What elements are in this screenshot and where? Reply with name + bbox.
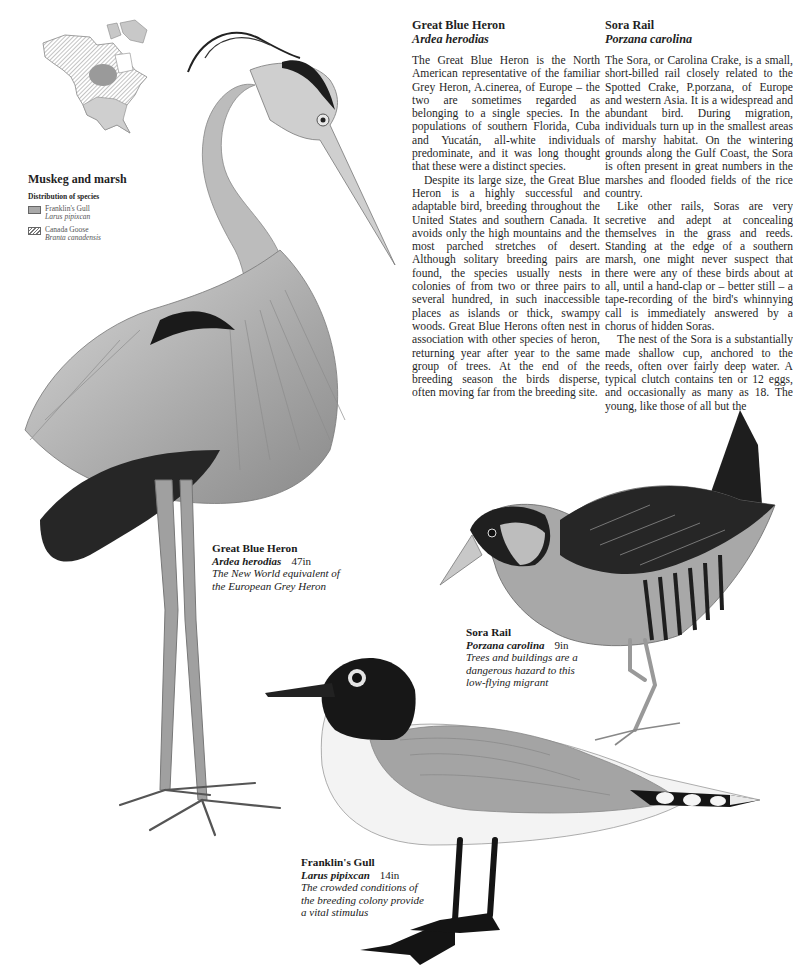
caption-description: The New World equivalent of the European… <box>212 567 352 592</box>
caption-franklins-gull: Franklin's Gull Larus pipixcan14in The c… <box>301 856 431 919</box>
caption-size: 47in <box>291 555 311 567</box>
caption-size: 14in <box>380 869 400 881</box>
caption-name: Great Blue Heron <box>212 542 352 555</box>
caption-name: Franklin's Gull <box>301 856 431 869</box>
caption-size: 9in <box>555 639 569 651</box>
caption-sora-rail: Sora Rail Porzana carolina9in Trees and … <box>466 626 591 689</box>
article-paragraph: Despite its large size, the Great Blue H… <box>412 174 600 400</box>
caption-description: Trees and buildings are a dangerous haza… <box>466 651 591 689</box>
article-title: Sora Rail <box>605 18 793 32</box>
article-latin-name: Ardea herodias <box>412 32 600 46</box>
article-paragraph: The nest of the Sora is a substan­tially… <box>605 333 793 413</box>
article-paragraph: The Sora, or Carolina Crake, is a small,… <box>605 54 793 200</box>
caption-name: Sora Rail <box>466 626 591 639</box>
caption-latin: Ardea herodias <box>212 555 281 567</box>
caption-great-blue-heron: Great Blue Heron Ardea herodias47in The … <box>212 542 352 592</box>
article-latin-name: Porzana carolina <box>605 32 793 46</box>
article-title: Great Blue Heron <box>412 18 600 32</box>
article-sora-rail: Sora Rail Porzana carolina The Sora, or … <box>605 18 793 413</box>
caption-latin: Porzana carolina <box>466 639 545 651</box>
article-paragraph: Like other rails, Soras are very secreti… <box>605 200 793 333</box>
article-paragraph: The Great Blue Heron is the North Americ… <box>412 54 600 174</box>
article-great-blue-heron: Great Blue Heron Ardea herodias The Grea… <box>412 18 600 400</box>
franklins-gull-illustration <box>260 645 780 975</box>
caption-description: The crowded conditions of the breeding c… <box>301 881 431 919</box>
caption-latin: Larus pipixcan <box>301 869 370 881</box>
